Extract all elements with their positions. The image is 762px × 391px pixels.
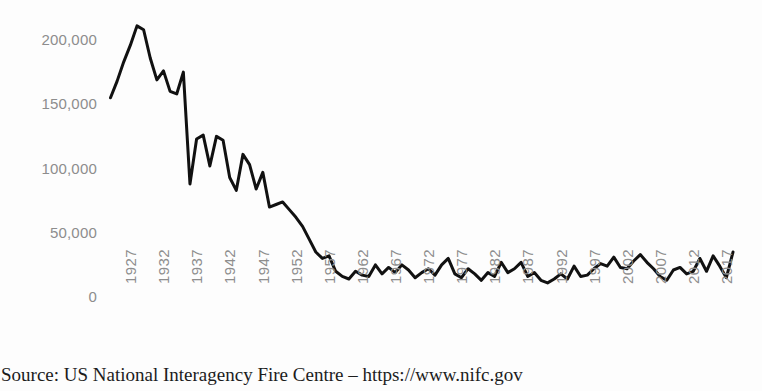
x-axis-tick-label: 1957 xyxy=(322,249,337,305)
x-axis-tick-label: 1972 xyxy=(421,249,436,305)
x-axis-tick-label: 2012 xyxy=(686,249,701,305)
x-axis-tick-label: 1927 xyxy=(123,249,138,305)
line-chart-figure: 200,000150,000100,00050,0000 19271932193… xyxy=(0,0,762,360)
x-axis-tick-label: 2007 xyxy=(653,249,668,305)
x-axis-tick-label: 1982 xyxy=(487,249,502,305)
x-axis-tick-label: 1947 xyxy=(256,249,271,305)
x-axis-tick-label: 1962 xyxy=(355,249,370,305)
source-caption: Source: US National Interagency Fire Cen… xyxy=(0,362,762,391)
x-axis-tick-label: 1937 xyxy=(189,249,204,305)
x-axis-tick-label: 1942 xyxy=(222,249,237,305)
x-axis-tick-label: 1977 xyxy=(454,249,469,305)
x-axis-tick-label: 2002 xyxy=(620,249,635,305)
x-axis-tick-label: 1992 xyxy=(554,249,569,305)
chart-screenshot: 200,000150,000100,00050,0000 19271932193… xyxy=(0,0,762,391)
x-axis: 1927193219371942194719521957196219671972… xyxy=(0,0,762,360)
x-axis-tick-label: 1967 xyxy=(388,249,403,305)
x-axis-tick-label: 1987 xyxy=(520,249,535,305)
x-axis-tick-label: 2017 xyxy=(719,249,734,305)
x-axis-tick-label: 1952 xyxy=(289,249,304,305)
x-axis-tick-label: 1932 xyxy=(156,249,171,305)
x-axis-tick-label: 1997 xyxy=(587,249,602,305)
